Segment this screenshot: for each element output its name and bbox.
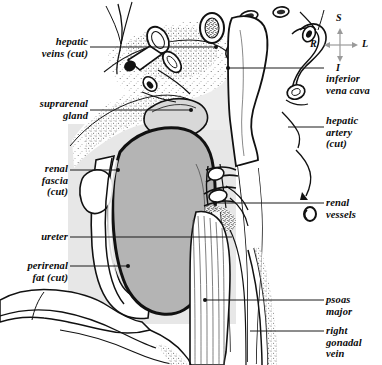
inferior-vena-cava-vessel <box>228 16 267 166</box>
compass-label-left: L <box>362 38 368 49</box>
hepatic-artery-stump <box>282 10 326 221</box>
lower-wall-fold2 <box>60 330 172 364</box>
label-inferior-vena-cava: inferior vena cava <box>326 73 382 96</box>
label-psoas-major: psoas major <box>326 294 382 317</box>
compass-label-right: R <box>310 38 317 49</box>
label-hepatic-veins-cut: hepatic veins (cut) <box>6 36 88 59</box>
label-ureter: ureter <box>6 231 68 243</box>
label-suprarenal-gland: suprarenal gland <box>6 98 88 121</box>
label-renal-fascia-cut: renal fascia (cut) <box>6 163 68 198</box>
label-renal-vessels: renal vessels <box>326 197 382 220</box>
label-right-gonadal-vein: right gonadal vein <box>326 325 382 360</box>
anatomical-figure: hepatic veins (cut) suprarenal gland ren… <box>0 0 382 365</box>
label-hepatic-artery-cut: hepatic artery (cut) <box>326 115 382 150</box>
compass-label-inferior: I <box>336 62 340 73</box>
label-perirenal-fat-cut: perirenal fat (cut) <box>6 260 68 283</box>
compass-label-superior: S <box>336 12 342 23</box>
orientation-compass <box>326 30 356 60</box>
